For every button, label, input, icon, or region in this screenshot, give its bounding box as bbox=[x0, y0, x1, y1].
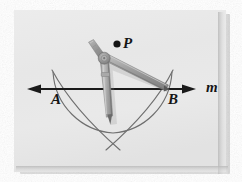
photograph-frame bbox=[14, 10, 226, 172]
compass-pivot-hinge bbox=[98, 52, 110, 64]
photo-bottom-edge-shadow bbox=[16, 166, 228, 175]
point-p-label: P bbox=[123, 36, 132, 51]
compass-construction-figure: P A B m bbox=[0, 0, 242, 182]
point-b-label: B bbox=[168, 92, 178, 107]
point-a-label: A bbox=[51, 92, 61, 107]
line-m-label: m bbox=[206, 80, 218, 95]
photo-right-edge-shadow bbox=[218, 12, 228, 174]
point-p-dot bbox=[113, 40, 120, 47]
